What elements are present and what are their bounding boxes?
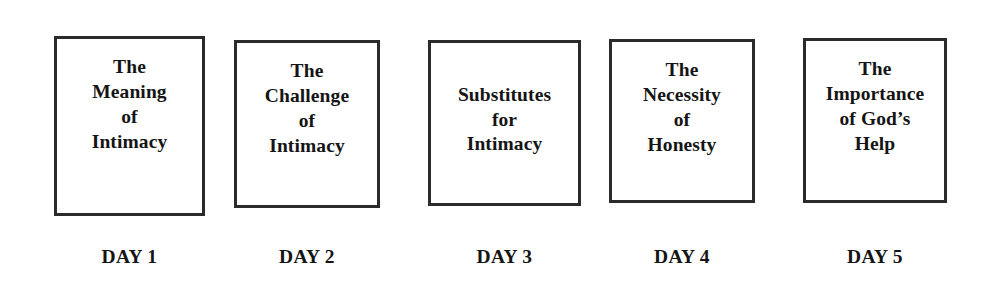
day-card-box-5: The Importance of God’s Help [803, 38, 947, 203]
day-card-caption-3: DAY 3 [428, 247, 581, 267]
day-card-caption-5: DAY 5 [803, 247, 947, 267]
day-card-title-3: Substitutes for Intimacy [431, 83, 578, 164]
day-card-caption-1: DAY 1 [54, 247, 205, 267]
day-card-caption-2: DAY 2 [234, 247, 380, 267]
day-card-box-1: The Meaning of Intimacy [54, 36, 205, 216]
day-card-2: The Challenge of IntimacyDAY 2 [234, 40, 380, 273]
day-card-4: The Necessity of HonestyDAY 4 [609, 39, 755, 273]
day-card-title-5: The Importance of God’s Help [806, 41, 944, 156]
day-card-caption-4: DAY 4 [609, 247, 755, 267]
day-card-title-4: The Necessity of Honesty [612, 42, 752, 157]
day-card-1: The Meaning of IntimacyDAY 1 [54, 36, 205, 273]
day-card-title-2: The Challenge of Intimacy [237, 43, 377, 158]
day-card-box-3: Substitutes for Intimacy [428, 40, 581, 206]
day-card-5: The Importance of God’s HelpDAY 5 [803, 38, 947, 273]
day-card-box-4: The Necessity of Honesty [609, 39, 755, 203]
diagram-canvas: The Meaning of IntimacyDAY 1The Challeng… [0, 0, 983, 289]
day-card-box-2: The Challenge of Intimacy [234, 40, 380, 208]
day-card-3: Substitutes for IntimacyDAY 3 [428, 40, 581, 273]
day-card-title-1: The Meaning of Intimacy [57, 39, 202, 154]
